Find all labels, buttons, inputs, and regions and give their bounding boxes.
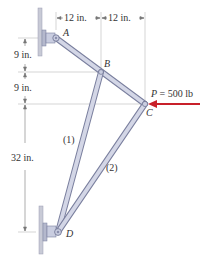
member-1-BD <box>58 72 101 232</box>
dim-v-3: 32 in. <box>11 153 34 163</box>
load-arrow-icon <box>148 100 200 108</box>
vertical-dimension <box>24 39 27 231</box>
dim-v-1: 9 in. <box>14 50 32 60</box>
dim-h-1: 12 in. <box>64 13 87 23</box>
point-label-A: A <box>63 28 69 38</box>
wall-bottom <box>39 206 43 254</box>
member-label-1: (1) <box>63 135 75 145</box>
wall-top <box>38 8 42 56</box>
member-label-2: (2) <box>106 163 118 173</box>
member-2-CD <box>58 104 145 232</box>
dim-h-2: 12 in. <box>108 13 131 23</box>
point-label-B: B <box>104 59 110 69</box>
load-label-text: = 500 lb <box>157 88 193 99</box>
pin-B <box>99 70 104 75</box>
point-label-D: D <box>66 229 73 239</box>
load-label: P = 500 lb <box>151 89 193 99</box>
bracket-A <box>42 30 59 46</box>
pin-C <box>142 101 147 106</box>
dim-v-2: 9 in. <box>14 83 32 93</box>
truss-diagram <box>0 0 209 261</box>
point-label-C: C <box>146 108 153 118</box>
